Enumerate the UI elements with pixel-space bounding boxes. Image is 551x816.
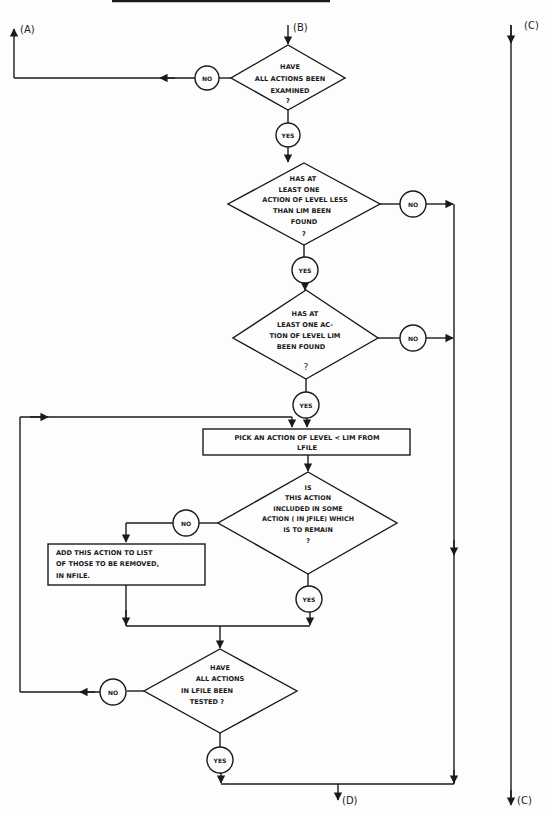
d4-yes-label: YES: [302, 596, 316, 603]
d5-line-3: IN LFILE BEEN: [181, 687, 233, 695]
d1-line-3: EXAMINED: [270, 87, 310, 95]
d2-line-2: LEAST ONE: [279, 186, 320, 194]
d4-no-label: NO: [181, 520, 191, 527]
d3-yes-label: YES: [299, 402, 313, 409]
p2-line-1: ADD THIS ACTION TO LIST: [56, 549, 153, 557]
d3-line-4: BEEN FOUND: [277, 343, 326, 351]
p1-line-2: LFILE: [297, 444, 317, 452]
d4-line-6: ?: [306, 537, 310, 545]
d2-line-5: FOUND: [291, 218, 318, 226]
d5-line-4: TESTED ?: [190, 698, 225, 706]
d1-line-1: HAVE: [280, 63, 300, 71]
d5-line-1: HAVE: [210, 664, 230, 672]
d4-line-2: THIS ACTION: [285, 494, 331, 502]
flowchart-canvas: (A) (B) (C) (C) (D) HAVE ALL ACTIONS BEE…: [0, 0, 551, 816]
d2-line-1: HAS AT: [290, 175, 317, 183]
d1-line-4: ?: [286, 97, 290, 105]
d2-line-4: THAN LIM BEEN: [273, 207, 331, 215]
d4-line-1: IS: [305, 484, 312, 492]
flowchart-svg: (A) (B) (C) (C) (D) HAVE ALL ACTIONS BEE…: [0, 0, 551, 816]
d4-line-3: INCLUDED IN SOME: [273, 505, 342, 513]
p2-line-3: IN NFILE.: [56, 572, 90, 580]
connector-d-label: (D): [342, 795, 358, 806]
d2-yes-label: YES: [298, 267, 312, 274]
p2-line-2: OF THOSE TO BE REMOVED,: [56, 560, 159, 568]
d5-yes-label: YES: [213, 757, 227, 764]
d2-no-label: NO: [408, 201, 418, 208]
d1-no-label: NO: [202, 75, 212, 82]
d3-line-1: HAS AT: [292, 310, 319, 318]
d1-line-2: ALL ACTIONS BEEN: [255, 75, 325, 83]
d3-line-2: LEAST ONE AC-: [277, 321, 333, 329]
d3-line-5: ?: [304, 362, 309, 372]
connector-c-top-label: (C): [524, 20, 539, 31]
d2-line-6: ?: [302, 230, 306, 238]
connector-b-label: (B): [293, 22, 308, 33]
d1-yes-label: YES: [281, 132, 295, 139]
d5-line-2: ALL ACTIONS: [196, 675, 245, 683]
d4-line-4: ACTION ( IN JFILE) WHICH: [262, 515, 354, 523]
connector-c-bottom-label: (C): [517, 795, 532, 806]
d3-line-3: TION OF LEVEL LIM: [270, 332, 341, 340]
d5-no-label: NO: [108, 689, 118, 696]
connector-a-label: (A): [20, 24, 35, 35]
d3-no-label: NO: [408, 335, 418, 342]
d4-line-5: IS TO REMAIN: [283, 526, 333, 534]
p1-line-1: PICK AN ACTION OF LEVEL < LIM FROM: [234, 434, 379, 442]
d2-line-3: ACTION OF LEVEL LESS: [262, 196, 348, 204]
